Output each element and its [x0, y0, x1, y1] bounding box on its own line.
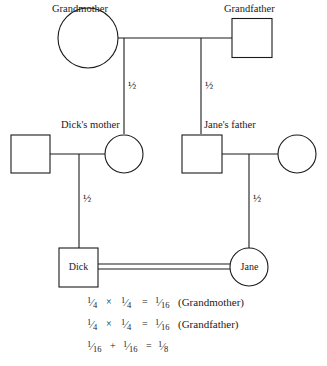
fraction-one-sixteenth: 1⁄16: [87, 341, 102, 352]
fraction-one-quarter: 1⁄4: [121, 319, 131, 330]
equation-operator: ×: [106, 291, 112, 313]
fraction-one-sixteenth: 1⁄16: [123, 341, 138, 352]
equation-operator: +: [110, 335, 116, 357]
equation-operator: ×: [106, 313, 112, 335]
equation-row: 1⁄16 + 1⁄16 = 1⁄8: [0, 335, 327, 357]
grandmother-symbol: [58, 8, 118, 68]
equation-row: 1⁄4 × 1⁄4 = 1⁄16 (Grandfather): [0, 313, 327, 335]
janes-father-label: Jane's father: [204, 120, 256, 131]
transmission-label-janes-father: ½: [253, 193, 261, 204]
fraction-one-eighth: 1⁄8: [158, 341, 168, 352]
equation-annotation: (Grandfather): [178, 313, 238, 335]
dicks-father-symbol: [11, 135, 50, 173]
janes-mother-symbol: [278, 135, 316, 173]
dicks-mother-symbol: [105, 135, 143, 173]
transmission-label-grandmother: ½: [128, 80, 136, 91]
fraction-one-sixteenth: 1⁄16: [155, 297, 170, 308]
transmission-label-grandfather: ½: [205, 80, 213, 91]
equals-sign: =: [142, 313, 148, 335]
fraction-one-sixteenth: 1⁄16: [155, 319, 170, 330]
inbreeding-coefficient-equations: 1⁄4 × 1⁄4 = 1⁄16 (Grandmother) 1⁄4 × 1⁄4…: [0, 291, 327, 357]
equals-sign: =: [146, 335, 152, 357]
fraction-one-quarter: 1⁄4: [87, 297, 97, 308]
grandfather-label: Grandfather: [224, 4, 275, 15]
transmission-label-dicks-mother: ½: [83, 193, 91, 204]
equation-annotation: (Grandmother): [178, 291, 244, 313]
grandmother-label: Grandmother: [52, 4, 108, 15]
fraction-one-quarter: 1⁄4: [87, 319, 97, 330]
grandfather-symbol: [232, 19, 272, 58]
equation-row: 1⁄4 × 1⁄4 = 1⁄16 (Grandmother): [0, 291, 327, 313]
equals-sign: =: [142, 291, 148, 313]
dick-label: Dick: [59, 262, 98, 272]
jane-label: Jane: [230, 262, 269, 272]
fraction-one-quarter: 1⁄4: [121, 297, 131, 308]
janes-father-symbol: [182, 135, 222, 173]
dicks-mother-label: Dick's mother: [61, 120, 120, 131]
pedigree-diagram: Grandmother Grandfather Dick's mother Ja…: [0, 0, 327, 366]
